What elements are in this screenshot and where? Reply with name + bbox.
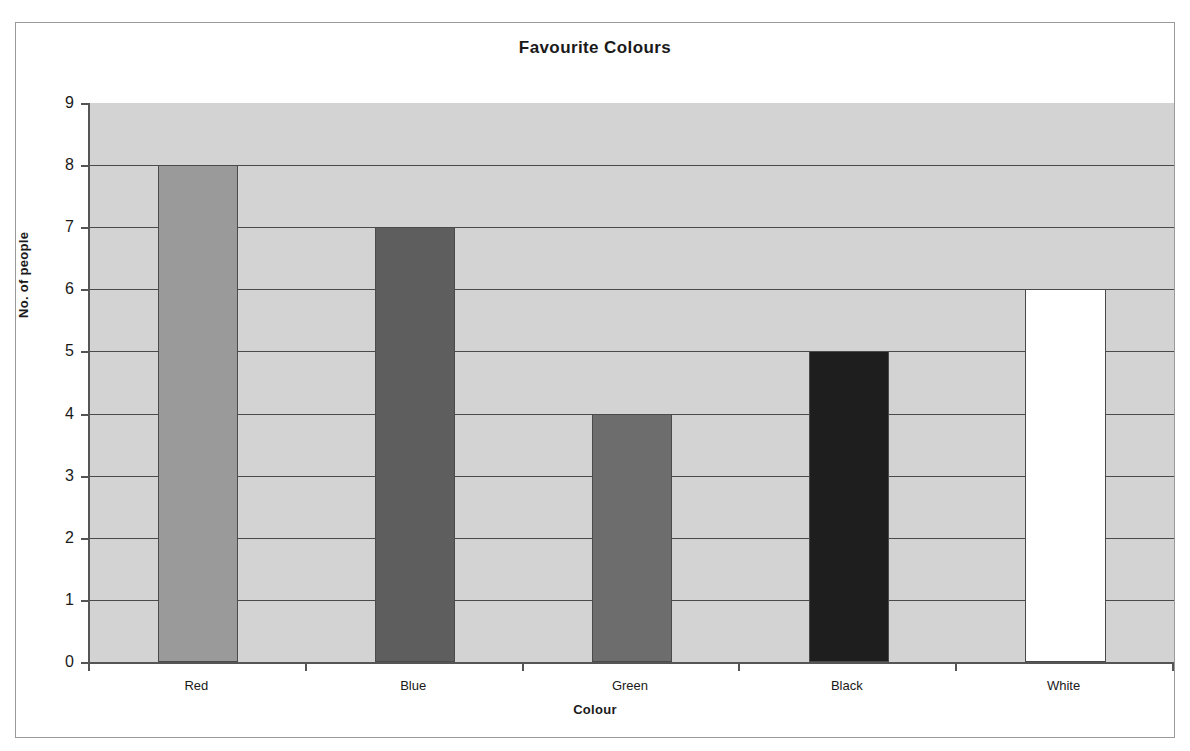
bar-black — [809, 351, 889, 662]
x-axis-label-blue: Blue — [305, 678, 522, 693]
y-axis-tick-label: 2 — [18, 530, 74, 546]
bar-white — [1025, 289, 1105, 662]
bar-green — [592, 414, 672, 662]
x-axis-label-red: Red — [88, 678, 305, 693]
x-axis-label-black: Black — [738, 678, 955, 693]
gridline — [90, 165, 1174, 166]
chart-figure: Favourite Colours No. of people Colour 0… — [0, 0, 1190, 751]
y-axis-tick-label: 5 — [18, 343, 74, 359]
x-axis-label-green: Green — [522, 678, 739, 693]
x-axis-label-white: White — [955, 678, 1172, 693]
y-axis-tick-mark — [81, 476, 88, 478]
y-axis-tick-label: 4 — [18, 406, 74, 422]
y-axis-title: No. of people — [16, 232, 31, 318]
y-axis-tick-mark — [81, 289, 88, 291]
y-axis-tick-mark — [81, 600, 88, 602]
y-axis-tick-mark — [81, 414, 88, 416]
gridline — [90, 351, 1174, 352]
y-axis-tick-label: 9 — [18, 95, 74, 111]
x-axis-title: Colour — [0, 702, 1190, 717]
y-axis-tick-label: 0 — [18, 654, 74, 670]
y-axis-tick-label: 6 — [18, 281, 74, 297]
y-axis-tick-label: 1 — [18, 592, 74, 608]
y-axis-tick-mark — [81, 103, 88, 105]
plot-area — [88, 103, 1174, 664]
chart-title: Favourite Colours — [0, 38, 1190, 58]
bar-red — [158, 165, 238, 662]
y-axis-tick-mark — [81, 351, 88, 353]
y-axis-tick-label: 8 — [18, 157, 74, 173]
gridline — [90, 227, 1174, 228]
y-axis-tick-label: 3 — [18, 468, 74, 484]
y-axis-tick-mark — [81, 165, 88, 167]
y-axis-tick-label: 7 — [18, 219, 74, 235]
gridline — [90, 289, 1174, 290]
bar-blue — [375, 227, 455, 662]
y-axis-tick-mark — [81, 227, 88, 229]
y-axis-tick-mark — [81, 662, 88, 664]
y-axis-tick-mark — [81, 538, 88, 540]
